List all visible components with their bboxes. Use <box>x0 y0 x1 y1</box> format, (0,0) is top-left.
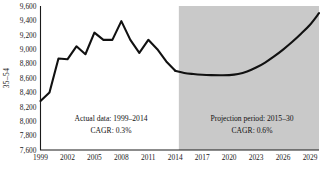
x-tick-label: 2008 <box>114 153 129 162</box>
x-tick-label: 1999 <box>33 153 48 162</box>
x-tick-label: 2023 <box>249 153 264 162</box>
y-tick-label: 9,400 <box>20 16 37 25</box>
y-tick-label: 8,600 <box>20 74 37 83</box>
x-tick-label: 2014 <box>168 153 183 162</box>
x-tick-label: 2011 <box>141 153 156 162</box>
y-tick-label: 8,000 <box>20 117 37 126</box>
x-tick-label: 2017 <box>195 153 210 162</box>
y-tick-label: 9,200 <box>20 31 37 40</box>
actual-data-line <box>41 21 176 101</box>
y-tick-label: 9,600 <box>20 2 37 11</box>
svg-text:CAGR: 0.3%: CAGR: 0.3% <box>91 126 133 135</box>
svg-text:CAGR: 0.6%: CAGR: 0.6% <box>232 126 274 135</box>
line-chart: 7,6007,8008,0008,2008,4008,6008,8009,000… <box>0 0 320 175</box>
chart-container: 7,6007,8008,0008,2008,4008,6008,8009,000… <box>0 0 320 175</box>
y-axis-tick-labels: 7,6007,8008,0008,2008,4008,6008,8009,000… <box>20 2 37 155</box>
y-tick-label: 8,400 <box>20 88 37 97</box>
x-axis-tick-labels: 1999200220052008201120142017202020232026… <box>33 153 318 162</box>
y-tick-label: 7,800 <box>20 131 37 140</box>
x-tick-label: 2020 <box>222 153 237 162</box>
y-tick-label: 9,000 <box>20 45 37 54</box>
x-tick-label: 2026 <box>276 153 291 162</box>
svg-text:Actual data: 1999–2014: Actual data: 1999–2014 <box>75 114 148 123</box>
x-tick-label: 2005 <box>87 153 102 162</box>
y-axis-title: 35–54 <box>2 68 11 88</box>
actual-annotation: Actual data: 1999–2014 CAGR: 0.3% <box>75 114 148 135</box>
y-tick-label: 8,200 <box>20 103 37 112</box>
y-tick-label: 8,800 <box>20 59 37 68</box>
svg-text:Projection period: 2015–30: Projection period: 2015–30 <box>210 114 293 123</box>
x-tick-label: 2002 <box>60 153 75 162</box>
x-tick-label: 2029 <box>303 153 318 162</box>
